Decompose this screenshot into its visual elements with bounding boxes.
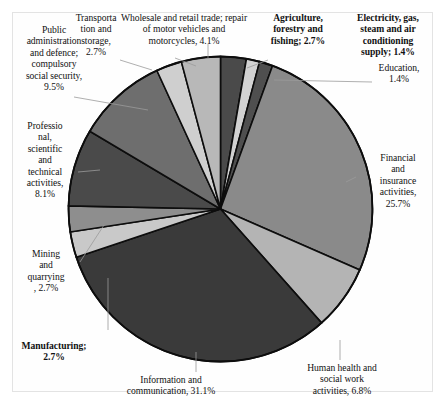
pie-slices [68, 56, 372, 361]
slice-label-electricity: Electricity, gas, steam and air conditio… [340, 12, 436, 58]
slice-label-mining: Mining and quarrying , 2.7% [16, 248, 76, 294]
slice-label-human-health: Human health and social work activities,… [288, 362, 396, 396]
slice-label-wholesale: Wholesale and retail trade; repair of mo… [108, 12, 260, 46]
slice-label-information: Information and communication, 31.1% [112, 374, 230, 397]
slice-label-agriculture: Agriculture, forestry and fishing; 2.7% [258, 12, 338, 46]
slice-label-financial: Financial and insurance activities, 25.7… [364, 152, 432, 209]
pie-chart-figure: Public administration and defence; compu… [0, 0, 446, 419]
slice-label-education: Education, 1.4% [364, 62, 434, 85]
slice-label-professional: Professio nal, scientific and technical … [16, 120, 74, 200]
slice-label-manufacturing: Manufacturing; 2.7% [8, 340, 100, 363]
